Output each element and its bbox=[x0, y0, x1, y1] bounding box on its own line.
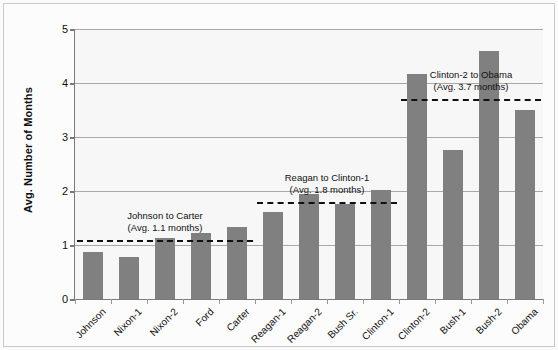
y-tick-label: 2 bbox=[62, 185, 68, 197]
x-tick-mark bbox=[147, 299, 148, 304]
x-tick-mark bbox=[399, 299, 400, 304]
x-tick-mark bbox=[543, 299, 544, 304]
x-tick-mark bbox=[507, 299, 508, 304]
bar bbox=[155, 238, 175, 299]
gridline bbox=[75, 29, 543, 30]
x-tick-mark bbox=[291, 299, 292, 304]
y-tick-mark bbox=[70, 137, 75, 139]
y-tick-label: 0 bbox=[62, 293, 68, 305]
annotation-value: (Avg. 3.7 months) bbox=[430, 81, 512, 93]
y-tick-label: 1 bbox=[62, 239, 68, 251]
x-axis-label: Obama bbox=[509, 306, 540, 337]
x-axis-label: Ford bbox=[193, 306, 215, 328]
y-tick-mark bbox=[70, 83, 75, 85]
bar bbox=[443, 150, 463, 299]
bar bbox=[407, 74, 427, 299]
x-axis-label: Reagan-2 bbox=[285, 306, 324, 345]
y-tick-mark bbox=[70, 245, 75, 247]
bar bbox=[263, 212, 283, 299]
x-tick-mark bbox=[255, 299, 256, 304]
average-line-reagan-to-clinton-1 bbox=[257, 202, 397, 204]
x-axis-label: Clinton-1 bbox=[360, 306, 396, 342]
annotation-title: Reagan to Clinton-1 bbox=[285, 172, 370, 184]
bar bbox=[335, 204, 355, 299]
x-axis-label: Bush-2 bbox=[474, 306, 504, 336]
chart-frame: Avg. Number of Months 012345 JohnsonNixo… bbox=[3, 3, 555, 347]
y-tick-label: 3 bbox=[62, 131, 68, 143]
bar bbox=[515, 110, 535, 299]
x-tick-mark bbox=[219, 299, 220, 304]
x-tick-mark bbox=[75, 299, 76, 304]
average-line-clinton-2-to-obama bbox=[401, 99, 541, 101]
bar bbox=[119, 257, 139, 299]
annotation-title: Clinton-2 to Obama bbox=[430, 69, 512, 81]
y-axis-title: Avg. Number of Months bbox=[22, 70, 34, 230]
y-tick-mark bbox=[70, 191, 75, 193]
chart-screenshot: Avg. Number of Months 012345 JohnsonNixo… bbox=[0, 0, 558, 350]
x-axis-label: Johnson bbox=[73, 306, 108, 341]
x-tick-mark bbox=[363, 299, 364, 304]
y-tick-label: 4 bbox=[62, 77, 68, 89]
x-axis-label: Nixon-2 bbox=[148, 306, 180, 338]
annotation-reagan-to-clinton-1: Reagan to Clinton-1(Avg. 1.8 months) bbox=[285, 172, 370, 196]
x-tick-mark bbox=[327, 299, 328, 304]
bar bbox=[227, 227, 247, 299]
annotation-title: Johnson to Carter bbox=[127, 210, 203, 222]
x-axis-label: Nixon-1 bbox=[112, 306, 144, 338]
bar bbox=[191, 233, 211, 299]
annotation-johnson-to-carter: Johnson to Carter(Avg. 1.1 months) bbox=[127, 210, 203, 234]
x-axis-label: Bush Sr. bbox=[325, 306, 360, 341]
x-axis-label: Carter bbox=[224, 306, 251, 333]
y-tick-mark bbox=[70, 29, 75, 31]
x-axis-label: Clinton-2 bbox=[396, 306, 432, 342]
bar bbox=[371, 190, 391, 299]
x-tick-mark bbox=[183, 299, 184, 304]
annotation-value: (Avg. 1.1 months) bbox=[127, 222, 203, 234]
x-axis-label: Reagan-1 bbox=[249, 306, 288, 345]
x-tick-mark bbox=[111, 299, 112, 304]
bar bbox=[299, 194, 319, 299]
plot-area: 012345 JohnsonNixon-1Nixon-2FordCarterRe… bbox=[74, 29, 543, 300]
annotation-clinton-2-to-obama: Clinton-2 to Obama(Avg. 3.7 months) bbox=[430, 69, 512, 93]
y-tick-label: 5 bbox=[62, 23, 68, 35]
x-axis-label: Bush-1 bbox=[438, 306, 468, 336]
x-tick-mark bbox=[471, 299, 472, 304]
gridline bbox=[75, 137, 543, 138]
average-line-johnson-to-carter bbox=[77, 240, 253, 242]
x-tick-mark bbox=[435, 299, 436, 304]
annotation-value: (Avg. 1.8 months) bbox=[285, 184, 370, 196]
bar bbox=[83, 252, 103, 299]
